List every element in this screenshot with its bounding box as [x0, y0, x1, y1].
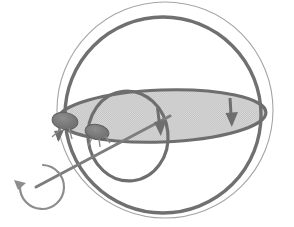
figure-root: Rotating sphere with equatorial orbit an…	[0, 0, 294, 227]
sphere-rotation-diagram: Rotating sphere with equatorial orbit an…	[0, 0, 294, 227]
